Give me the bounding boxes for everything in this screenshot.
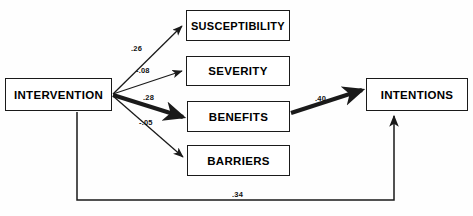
edge-intervention-susceptibility — [113, 26, 182, 94]
node-severity[interactable]: SEVERITY — [186, 56, 290, 86]
edge-label-intervention-barriers: -.05 — [139, 118, 153, 127]
node-barriers[interactable]: BARRIERS — [187, 145, 290, 176]
edge-label-intervention-intentions: .34 — [232, 190, 243, 199]
node-intervention-label: INTERVENTION — [14, 89, 103, 101]
node-intentions-label: INTENTIONS — [381, 89, 454, 101]
edge-label-intervention-benefits: .28 — [143, 93, 154, 102]
node-intervention[interactable]: INTERVENTION — [5, 78, 112, 111]
node-benefits[interactable]: BENEFITS — [187, 101, 290, 132]
path-diagram-canvas: INTERVENTION SUSCEPTIBILITY SEVERITY BEN… — [0, 0, 473, 216]
node-susceptibility[interactable]: SUSCEPTIBILITY — [186, 10, 290, 41]
node-severity-label: SEVERITY — [208, 65, 267, 77]
node-barriers-label: BARRIERS — [207, 155, 269, 167]
node-intentions[interactable]: INTENTIONS — [366, 78, 468, 111]
edge-label-intervention-susceptibility: .26 — [131, 44, 142, 53]
edge-benefits-intentions — [291, 90, 362, 113]
edge-label-intervention-severity: -.08 — [136, 66, 150, 75]
edge-label-benefits-intentions: .40 — [315, 94, 326, 103]
node-benefits-label: BENEFITS — [209, 111, 268, 123]
node-susceptibility-label: SUSCEPTIBILITY — [191, 20, 285, 32]
